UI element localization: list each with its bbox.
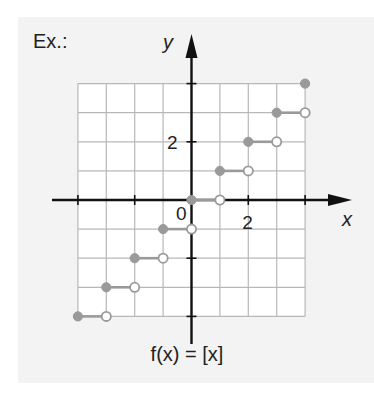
closed-dot (244, 137, 253, 146)
step-function-plot: yx022 (0, 0, 374, 401)
closed-dot (130, 254, 139, 263)
open-dot (272, 137, 281, 146)
y-tick-label-2: 2 (167, 132, 178, 153)
open-dot (130, 283, 139, 292)
open-dot (215, 195, 224, 204)
origin-label: 0 (176, 203, 187, 224)
open-dot (159, 254, 168, 263)
closed-dot (159, 225, 168, 234)
function-formula: f(x) = [x] (0, 343, 374, 366)
open-dot (244, 166, 253, 175)
closed-dot (187, 195, 196, 204)
closed-dot (73, 312, 82, 321)
closed-dot (301, 79, 310, 88)
x-axis-label: x (341, 208, 353, 230)
x-tick-label-2: 2 (242, 212, 253, 233)
open-dot (187, 225, 196, 234)
open-dot (301, 108, 310, 117)
x-axis-arrow-icon (328, 194, 352, 206)
open-dot (102, 312, 111, 321)
y-axis-label: y (161, 31, 174, 53)
closed-dot (272, 108, 281, 117)
closed-dot (215, 166, 224, 175)
y-axis-arrow-icon (186, 34, 198, 58)
closed-dot (102, 283, 111, 292)
